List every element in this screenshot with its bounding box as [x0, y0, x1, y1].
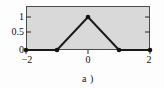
data-point-marker [148, 48, 153, 53]
data-series-line [26, 17, 150, 50]
x-tick-label-0: 0 [86, 55, 91, 65]
x-tick-label-minus-2: −2 [22, 55, 33, 65]
y-tick-label-0.5: 0.5 [12, 27, 25, 37]
data-point-marker [24, 48, 29, 53]
y-axis-ticks [26, 17, 31, 32]
figure-caption: a ) [82, 73, 94, 84]
data-point-marker [55, 48, 60, 53]
data-point-markers [24, 15, 153, 53]
y-tick-label-1: 1 [19, 12, 24, 22]
data-point-marker [117, 48, 122, 53]
figure-panel-a: 1 0.5 0 −2 0 2 a ) [0, 0, 164, 88]
x-tick-label-2: 2 [147, 55, 152, 65]
y-axis-ticks-right [145, 17, 150, 32]
data-point-marker [86, 15, 91, 20]
